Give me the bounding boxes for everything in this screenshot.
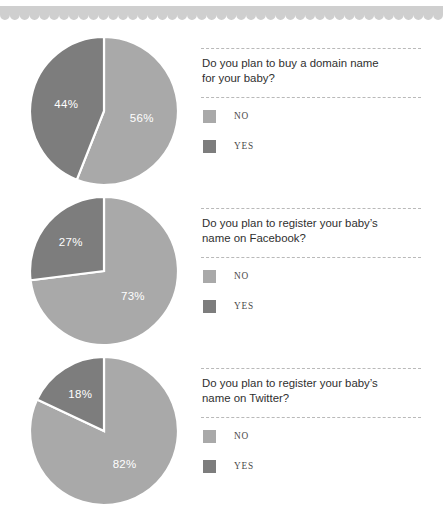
pie-slice-label: 44%	[54, 98, 78, 110]
question-panel: Do you plan to buy a domain name for you…	[201, 30, 423, 190]
divider-rule-top	[201, 368, 421, 369]
question-line-2: for your baby?	[202, 72, 275, 84]
legend-label-no: NO	[234, 111, 249, 121]
pie-slice-label: 27%	[59, 236, 83, 248]
legend: NO YES	[203, 108, 254, 168]
legend-swatch-yes	[203, 140, 216, 153]
question-text: Do you plan to buy a domain name for you…	[202, 56, 420, 85]
question-text: Do you plan to register your baby’s name…	[202, 216, 420, 245]
legend-item-yes: YES	[203, 298, 254, 314]
question-line-1: Do you plan to register your baby’s	[202, 377, 378, 389]
legend-item-yes: YES	[203, 138, 254, 154]
pie-slice-label: 82%	[113, 458, 137, 470]
pie-slice-label: 56%	[130, 112, 154, 124]
legend: NO YES	[203, 268, 254, 328]
pie-slice-label: 18%	[68, 388, 92, 400]
pie-chart-2: 82%18%	[28, 355, 180, 507]
question-panel: Do you plan to register your baby’s name…	[201, 190, 423, 350]
legend-label-yes: YES	[234, 301, 254, 311]
legend-swatch-no	[203, 270, 216, 283]
legend-swatch-no	[203, 430, 216, 443]
question-text: Do you plan to register your baby’s name…	[202, 376, 420, 405]
divider-rule-bottom	[201, 97, 421, 98]
legend-item-yes: YES	[203, 458, 254, 474]
pie-chart-graphic: 73%27%	[28, 195, 180, 347]
chart-row: 56%44% Do you plan to buy a domain name …	[0, 30, 443, 190]
question-line-2: name on Twitter?	[202, 392, 289, 404]
legend-item-no: NO	[203, 108, 254, 124]
legend-label-no: NO	[234, 271, 249, 281]
divider-rule-top	[201, 208, 421, 209]
question-line-1: Do you plan to register your baby’s	[202, 217, 378, 229]
pie-chart-1: 73%27%	[28, 195, 180, 347]
pie-chart-0: 56%44%	[28, 35, 180, 187]
legend-swatch-yes	[203, 460, 216, 473]
divider-rule-bottom	[201, 417, 421, 418]
legend-item-no: NO	[203, 268, 254, 284]
legend-swatch-no	[203, 110, 216, 123]
question-line-2: name on Facebook?	[202, 232, 306, 244]
divider-rule-top	[201, 48, 421, 49]
legend-item-no: NO	[203, 428, 254, 444]
legend: NO YES	[203, 428, 254, 488]
legend-swatch-yes	[203, 300, 216, 313]
scallop-shape-icon	[0, 6, 443, 20]
legend-label-yes: YES	[234, 141, 254, 151]
legend-label-yes: YES	[234, 461, 254, 471]
scalloped-border-decoration	[0, 6, 443, 20]
divider-rule-bottom	[201, 257, 421, 258]
pie-slice-label: 73%	[121, 290, 145, 302]
question-line-1: Do you plan to buy a domain name	[202, 57, 379, 69]
pie-chart-graphic: 82%18%	[28, 355, 180, 507]
chart-row: 82%18% Do you plan to register your baby…	[0, 350, 443, 508]
pie-chart-graphic: 56%44%	[28, 35, 180, 187]
legend-label-no: NO	[234, 431, 249, 441]
question-panel: Do you plan to register your baby’s name…	[201, 350, 423, 508]
chart-row: 73%27% Do you plan to register your baby…	[0, 190, 443, 350]
